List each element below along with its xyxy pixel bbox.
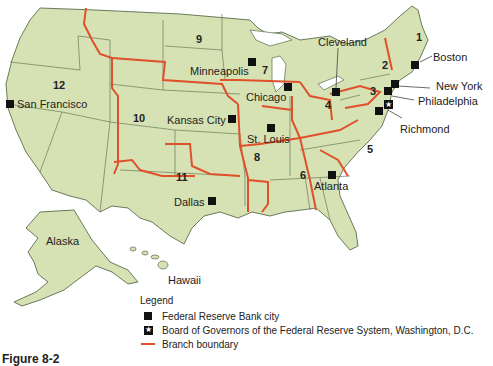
bank-marker-st-louis (267, 124, 275, 132)
star-square-icon: ★ (144, 326, 153, 335)
district-number-12: 12 (53, 80, 65, 91)
district-number-10: 10 (133, 113, 145, 124)
legend-title: Legend (140, 294, 473, 308)
city-label-chicago: Chicago (246, 92, 286, 103)
city-label-kansas-city: Kansas City (167, 115, 226, 126)
legend: Legend Federal Reserve Bank city ★ Board… (140, 294, 473, 351)
city-label-atlanta: Atlanta (314, 181, 348, 192)
legend-label: Board of Governors of the Federal Reserv… (162, 325, 473, 336)
district-number-1: 1 (416, 32, 422, 43)
black-square-icon (144, 312, 152, 320)
city-label-boston: Boston (433, 52, 467, 63)
bank-marker-kansas-city (228, 115, 236, 123)
city-label-minneapolis: Minneapolis (190, 66, 249, 77)
bank-marker-san-francisco (6, 100, 14, 108)
legend-item-bank-city: Federal Reserve Bank city (140, 309, 473, 323)
bank-marker-new-york (391, 80, 399, 88)
city-label-san-francisco: San Francisco (17, 99, 87, 110)
legend-item-branch-boundary: Branch boundary (140, 337, 473, 351)
city-label-philadelphia: Philadelphia (418, 96, 478, 107)
district-number-7: 7 (262, 65, 268, 76)
district-number-3: 3 (370, 86, 376, 97)
city-label-st-louis: St. Louis (247, 134, 290, 145)
district-number-4: 4 (325, 100, 331, 111)
bank-marker-cleveland (332, 88, 340, 96)
hawaii (130, 247, 168, 269)
bank-marker-richmond (375, 107, 383, 115)
bank-marker-boston (411, 61, 419, 69)
district-number-8: 8 (254, 152, 260, 163)
legend-label: Federal Reserve Bank city (162, 311, 279, 322)
city-label-cleveland: Cleveland (318, 37, 367, 48)
bank-marker-dallas (208, 197, 216, 205)
district-number-5: 5 (367, 144, 373, 155)
city-label-new-york: New York (436, 81, 482, 92)
legend-label: Branch boundary (162, 339, 238, 350)
district-number-2: 2 (382, 60, 388, 71)
bank-marker-philadelphia (384, 87, 392, 95)
region-label-hawaii: Hawaii (168, 275, 201, 286)
district-number-6: 6 (300, 170, 306, 181)
figure-caption: Figure 8-2 (2, 352, 59, 366)
board-of-governors-marker: ★ (384, 100, 393, 109)
city-label-richmond: Richmond (400, 124, 450, 135)
city-label-dallas: Dallas (174, 197, 205, 208)
bank-marker-atlanta (328, 171, 336, 179)
bank-marker-minneapolis (248, 58, 256, 66)
region-label-alaska: Alaska (46, 236, 79, 247)
bank-marker-chicago (284, 83, 292, 91)
alaska (14, 210, 138, 306)
district-number-11: 11 (176, 172, 188, 183)
red-line-icon (141, 343, 155, 345)
district-number-9: 9 (196, 34, 202, 45)
legend-item-board-of-governors: ★ Board of Governors of the Federal Rese… (140, 323, 473, 337)
